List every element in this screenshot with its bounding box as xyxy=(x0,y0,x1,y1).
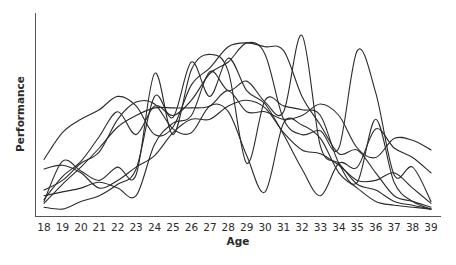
x-tick-label: 30 xyxy=(258,221,271,233)
series-line-5 xyxy=(44,100,431,209)
x-tick-label: 28 xyxy=(222,221,235,233)
x-tick-label: 27 xyxy=(203,221,216,233)
x-axis-title: Age xyxy=(227,235,250,247)
x-tick-label: 33 xyxy=(314,221,327,233)
x-tick-label: 37 xyxy=(387,221,400,233)
x-tick-label: 31 xyxy=(277,221,290,233)
x-tick-label: 22 xyxy=(111,221,124,233)
x-tick-label: 26 xyxy=(185,221,199,233)
x-tick-label: 21 xyxy=(93,221,106,233)
x-tick-label: 25 xyxy=(166,221,179,233)
x-tick-labels: 1819202122232425262728293031323334353637… xyxy=(37,221,437,233)
series-line-2 xyxy=(44,100,431,203)
x-tick-label: 18 xyxy=(37,221,50,233)
x-tick-label: 20 xyxy=(74,221,87,233)
chart: 1819202122232425262728293031323334353637… xyxy=(0,0,456,265)
x-tick-label: 29 xyxy=(240,221,253,233)
x-tick-label: 38 xyxy=(406,221,419,233)
x-tick-label: 32 xyxy=(295,221,308,233)
x-tick-label: 39 xyxy=(424,221,437,233)
x-tick-label: 19 xyxy=(56,221,69,233)
x-tick-label: 23 xyxy=(129,221,142,233)
x-tick-label: 35 xyxy=(351,221,364,233)
plot-area xyxy=(44,35,431,209)
x-tick-label: 24 xyxy=(148,221,162,233)
x-tick-label: 36 xyxy=(369,221,383,233)
x-tick-label: 34 xyxy=(332,221,346,233)
y-axis-title: Performance xyxy=(14,76,26,152)
